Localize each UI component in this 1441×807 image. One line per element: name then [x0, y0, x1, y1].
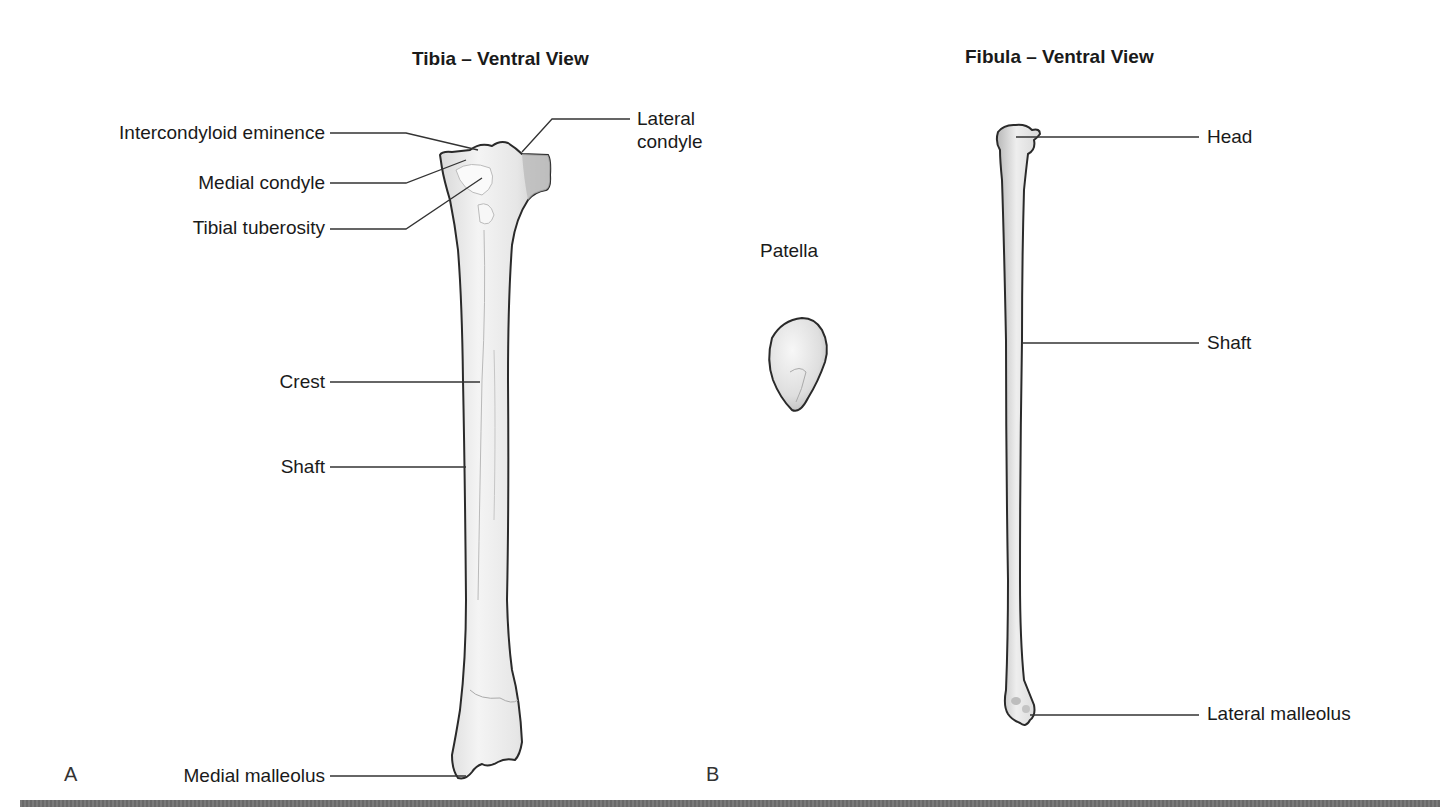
label-medial-condyle: Medial condyle [198, 172, 325, 194]
fibula-bone [997, 125, 1040, 725]
label-lateral-malleolus: Lateral malleolus [1207, 703, 1351, 725]
bottom-divider-bar [20, 800, 1440, 807]
tibia-bone [440, 142, 550, 778]
panel-letter-a: A [64, 763, 77, 786]
label-crest: Crest [280, 371, 325, 393]
label-tibia-shaft: Shaft [281, 456, 325, 478]
label-fibula-head: Head [1207, 126, 1252, 148]
tibia-title: Tibia – Ventral View [412, 48, 589, 70]
label-intercondyloid-eminence: Intercondyloid eminence [119, 122, 325, 144]
label-fibula-shaft: Shaft [1207, 332, 1251, 354]
patella-bone [769, 318, 827, 411]
leader-lines-fibula [1016, 137, 1199, 715]
label-patella: Patella [760, 240, 818, 262]
label-lateral-condyle-line2: condyle [637, 131, 703, 153]
label-lateral-condyle-line1: Lateral [637, 108, 695, 130]
panel-letter-b: B [706, 763, 719, 786]
label-medial-malleolus: Medial malleolus [183, 765, 325, 787]
label-tibial-tuberosity: Tibial tuberosity [193, 217, 325, 239]
fibula-title: Fibula – Ventral View [965, 46, 1154, 68]
